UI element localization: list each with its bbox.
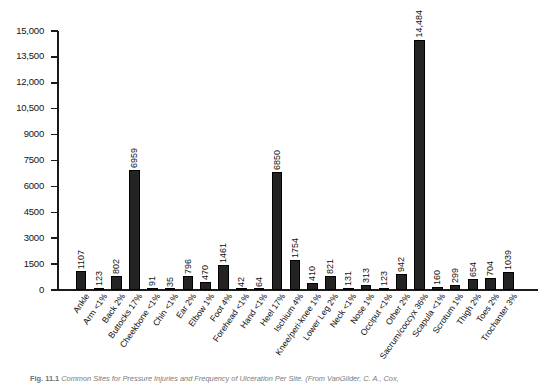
figure-caption: Fig. 11.1 Common Sites for Pressure Inju…	[30, 374, 535, 383]
y-axis-tick-label: 3000	[0, 233, 44, 243]
bar-value-label: 6850	[272, 150, 283, 170]
y-axis-tick-label: 6000	[0, 181, 44, 191]
bar-group: 14,484	[411, 31, 429, 290]
y-axis-tick-label: 9000	[0, 129, 44, 139]
bar-group: 42	[232, 31, 250, 290]
bar-group: 64	[250, 31, 268, 290]
y-axis-tick-label: 4500	[0, 207, 44, 217]
y-axis-tick-label: 10,500	[0, 103, 44, 113]
bar-group: 821	[322, 31, 340, 290]
bar-group: 942	[393, 31, 411, 290]
bar-group: 654	[464, 31, 482, 290]
bar-group: 91	[143, 31, 161, 290]
bar-value-label: 6959	[129, 148, 140, 168]
bar-group: 6959	[126, 31, 144, 290]
caption-label: Fig. 11.1	[30, 374, 59, 383]
y-axis-tick-label: 15,000	[0, 26, 44, 36]
figure-container: 015003000450060007500900010,50012,00013,…	[0, 0, 540, 388]
bar-value-label: 1461	[218, 243, 229, 263]
bar-series: 1107123802695991357964701461426468501754…	[57, 31, 538, 290]
bar-group: 160	[428, 31, 446, 290]
y-axis-tick-label: 12,000	[0, 77, 44, 87]
bar-group: 123	[90, 31, 108, 290]
bar-group: 704	[482, 31, 500, 290]
bar-value-label: 1754	[290, 238, 301, 258]
bar	[76, 271, 87, 290]
y-axis-tick-label: 7500	[0, 155, 44, 165]
caption-text: Common Sites for Pressure Injuries and F…	[61, 374, 399, 383]
y-axis-tick-label: 1500	[0, 259, 44, 269]
bar-group: 410	[304, 31, 322, 290]
y-axis-tick-label: 0	[0, 285, 44, 295]
bar-value-label: 1107	[76, 250, 87, 269]
bar-group: 470	[197, 31, 215, 290]
bar-group: 1039	[500, 31, 518, 290]
y-axis-tick-label: 13,500	[0, 51, 44, 61]
bar-group: 1107	[72, 31, 90, 290]
bar-group: 123	[375, 31, 393, 290]
bar-value-label: 14,484	[414, 10, 425, 38]
bar-group: 802	[108, 31, 126, 290]
bar-group: 1461	[215, 31, 233, 290]
bar-group: 1754	[286, 31, 304, 290]
